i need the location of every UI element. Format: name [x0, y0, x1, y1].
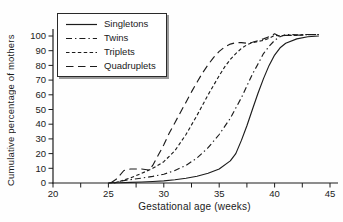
y-tick-label-100: 100 [30, 30, 46, 41]
chart-plot-area: 2025303540450102030405060708090100 [0, 0, 343, 222]
legend-line-sample-quadruplets [65, 63, 98, 70]
legend-line-sample-triplets [65, 49, 98, 56]
x-axis-title: Gestational age (weeks) [53, 201, 336, 212]
x-tick-label-40: 40 [269, 188, 280, 199]
x-tick-label-20: 20 [48, 188, 59, 199]
legend-label-twins: Twins [104, 33, 128, 43]
legend-label-quadruplets: Quadruplets [104, 61, 156, 71]
y-tick-label-90: 90 [35, 45, 46, 56]
legend-item-quadruplets: Quadruplets [65, 60, 161, 73]
y-tick-label-10: 10 [35, 163, 46, 174]
y-tick-label-0: 0 [41, 177, 46, 188]
legend-item-triplets: Triplets [65, 46, 161, 59]
legend-item-twins: Twins [65, 32, 161, 45]
legend-line-sample-singletons [65, 21, 98, 28]
x-tick-label-45: 45 [325, 188, 336, 199]
legend-line-sample-twins [65, 35, 98, 42]
x-tick-label-35: 35 [214, 188, 225, 199]
legend-label-singletons: Singletons [104, 19, 148, 29]
legend: Singletons Twins Triplets Quadruplets [57, 13, 167, 77]
figure: 2025303540450102030405060708090100 Cumul… [0, 0, 343, 222]
y-tick-label-70: 70 [35, 74, 46, 85]
y-tick-label-50: 50 [35, 104, 46, 115]
y-tick-label-20: 20 [35, 148, 46, 159]
x-tick-label-30: 30 [159, 188, 170, 199]
y-tick-label-80: 80 [35, 60, 46, 71]
y-tick-label-60: 60 [35, 89, 46, 100]
y-axis-title: Cumulative percentage of mothers [0, 14, 20, 206]
y-tick-label-30: 30 [35, 133, 46, 144]
x-tick-label-25: 25 [103, 188, 114, 199]
y-tick-label-40: 40 [35, 118, 46, 129]
legend-item-singletons: Singletons [65, 18, 161, 31]
legend-label-triplets: Triplets [104, 47, 135, 57]
